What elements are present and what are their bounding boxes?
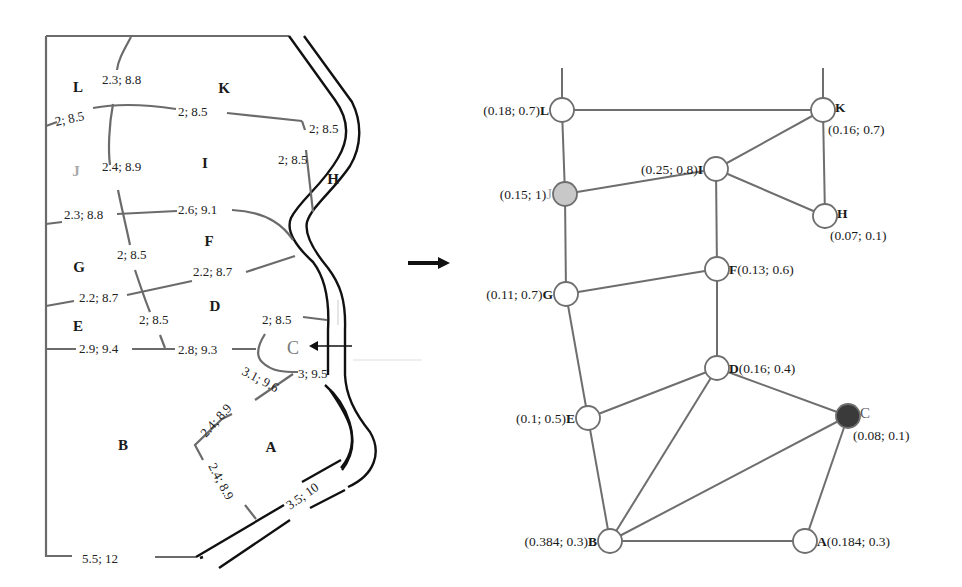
edge-weight-label: 2; 8.5 <box>54 108 86 129</box>
graph-node-b: (0.384; 0.3)B <box>525 529 622 553</box>
edge-weight-label: 2.6; 9.1 <box>178 202 217 217</box>
zone-label-b: B <box>118 437 128 453</box>
edge-weight-label: 2; 8.5 <box>117 247 147 262</box>
node-label: A(0.184; 0.3) <box>817 534 890 549</box>
diagram-canvas: LKJIHFGDECBA 2.3; 8.82; 8.52; 8.52; 8.52… <box>0 0 962 587</box>
edge-weight-label: 2.2; 8.7 <box>193 264 233 279</box>
graph-edge-e-d <box>588 368 717 418</box>
node-label: (0.11; 0.7)G <box>486 287 553 302</box>
node-circle <box>550 98 574 122</box>
graph-node-h: H(0.07; 0.1) <box>813 204 887 243</box>
graph-edge-g-f <box>566 269 717 294</box>
graph-node-c: C(0.08; 0.1) <box>836 404 910 443</box>
zone-label-k: K <box>218 80 230 96</box>
node-circle <box>598 529 622 553</box>
node-coord-label: (0.16; 0.7) <box>828 122 885 137</box>
zone-label-d: D <box>210 298 221 314</box>
node-coord-label: (0.08; 0.1) <box>853 428 910 443</box>
node-circle <box>554 282 578 306</box>
graph-edge-i-k <box>716 110 823 169</box>
zone-label-a: A <box>266 439 277 455</box>
graph-node-g: (0.11; 0.7)G <box>486 282 578 306</box>
node-label: D(0.16; 0.4) <box>729 361 795 376</box>
edge-weight-label: 2.3; 8.8 <box>102 72 141 87</box>
zone-label-h: H <box>327 171 339 187</box>
zone-label-g: G <box>73 259 85 275</box>
graph-node-a: A(0.184; 0.3) <box>793 529 890 553</box>
zone-label-f: F <box>204 233 213 249</box>
district-map: LKJIHFGDECBA 2.3; 8.82; 8.52; 8.52; 8.52… <box>46 36 422 568</box>
node-circle <box>705 356 729 380</box>
node-circle <box>705 257 729 281</box>
graph-edge-e-b <box>588 418 610 541</box>
node-label: K <box>835 100 846 115</box>
graph-node-i: (0.25; 0.8)I <box>641 157 728 181</box>
edge-weight-label: 2.8; 9.3 <box>178 342 217 357</box>
node-circle <box>811 98 835 122</box>
node-circle <box>813 204 837 228</box>
node-label: (0.25; 0.8)I <box>641 162 703 177</box>
graph-edge-i-h <box>716 169 825 216</box>
adjacency-graph: (0.18; 0.7)LK(0.16; 0.7)(0.25; 0.8)I(0.1… <box>483 68 909 553</box>
node-label: (0.384; 0.3)B <box>525 534 597 549</box>
zone-label-e: E <box>73 318 83 334</box>
node-label: F(0.13; 0.6) <box>729 262 794 277</box>
graph-node-d: D(0.16; 0.4) <box>705 356 795 380</box>
edge-weight-label: 2; 8.5 <box>139 312 169 327</box>
node-label: C <box>860 405 870 421</box>
node-circle <box>576 406 600 430</box>
arrow-head-icon <box>309 341 318 351</box>
node-coord-label: (0.07; 0.1) <box>830 228 887 243</box>
edge-weight-label: 3.5; 10 <box>283 479 321 512</box>
edge-weight-label: 5.5; 12 <box>82 551 118 566</box>
node-label: (0.1; 0.5)E <box>516 411 575 426</box>
edge-weight-label: 2; 8.5 <box>262 312 292 327</box>
edge-weight-label: 2.4; 8.9 <box>205 460 237 502</box>
node-label: (0.18; 0.7)L <box>483 103 549 118</box>
zone-label-j: J <box>72 163 80 179</box>
graph-node-l: (0.18; 0.7)L <box>483 98 574 122</box>
node-label: (0.15; 1)J <box>500 186 553 202</box>
node-circle <box>793 529 817 553</box>
edge-weight-label: 2.9; 9.4 <box>79 341 119 356</box>
zone-label-l: L <box>73 79 83 95</box>
edge-weight-label: 3; 9.5 <box>298 366 328 381</box>
edge-labels: 2.3; 8.82; 8.52; 8.52; 8.52; 8.52.4; 8.9… <box>54 72 339 566</box>
graph-node-f: F(0.13; 0.6) <box>705 257 794 281</box>
graph-edge-k-h <box>823 110 825 216</box>
edge-weight-label: 2.2; 8.7 <box>79 290 119 305</box>
graph-edge-g-e <box>566 294 588 418</box>
transform-arrow <box>408 257 450 269</box>
graph-node-e: (0.1; 0.5)E <box>516 406 600 430</box>
edge-weight-label: 3.1; 9.6 <box>240 363 282 395</box>
river-bank-lower-inner <box>325 385 352 468</box>
edge-weight-label: 2; 8.5 <box>309 121 339 136</box>
zone-label-c: C <box>287 338 299 358</box>
graph-node-j: (0.15; 1)J <box>500 182 577 206</box>
node-circle <box>836 404 860 428</box>
river-bank-outer <box>219 36 376 568</box>
edge-weight-label: 2.4; 8.9 <box>102 159 141 174</box>
edge-weight-label: 2.3; 8.8 <box>64 207 103 222</box>
edge-weight-label: 2.4; 8.9 <box>197 401 234 440</box>
graph-edge-j-g <box>565 194 566 294</box>
right-arrow-icon <box>438 257 450 269</box>
graph-edge-i-f <box>716 169 717 269</box>
node-label: H <box>837 206 848 221</box>
edge-weight-label: 2; 8.5 <box>278 152 308 167</box>
graph-edge-d-b <box>610 368 717 541</box>
edge-weight-label: 2; 8.5 <box>178 104 208 119</box>
node-circle <box>704 157 728 181</box>
graph-node-k: K(0.16; 0.7) <box>811 98 885 137</box>
graph-nodes: (0.18; 0.7)LK(0.16; 0.7)(0.25; 0.8)I(0.1… <box>483 98 909 553</box>
zone-label-i: I <box>202 155 208 171</box>
node-circle <box>553 182 577 206</box>
